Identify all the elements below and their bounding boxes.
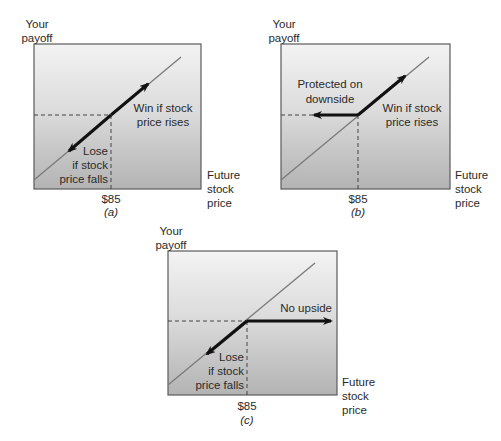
strike-label-a: $85 [91, 192, 131, 206]
annotation-line: Lose [186, 350, 244, 364]
x-axis-label-line: Future [207, 168, 240, 182]
annotation-line: price rises [125, 115, 201, 129]
annotation-line: price rises [374, 115, 450, 129]
annotation-lose-c: Lose if stock price falls [186, 350, 244, 392]
annotation-line: No upside [250, 301, 332, 315]
x-axis-label-line: price [207, 196, 240, 210]
annotation-line: Win if stock [125, 101, 201, 115]
x-axis-label-line: stock [342, 389, 375, 403]
annotation-line: Lose [50, 144, 108, 158]
annotation-protected-b: Protected on downside [290, 77, 370, 107]
strike-label-b: $85 [338, 192, 378, 206]
annotation-win-b: Win if stock price rises [374, 101, 450, 129]
x-axis-label-line: price [455, 196, 488, 210]
annotation-line: price falls [50, 172, 108, 186]
caption-a: (a) [91, 205, 131, 219]
caption-b: (b) [338, 205, 378, 219]
y-axis-label-b: Your payoff [261, 17, 307, 45]
x-axis-label-line: stock [455, 182, 488, 196]
caption-c: (c) [227, 413, 267, 427]
x-axis-label-line: Future [342, 375, 375, 389]
y-axis-label-line: Your [14, 17, 60, 31]
payoff-diagrams [0, 0, 501, 441]
y-axis-label-line: Your [148, 224, 194, 238]
x-axis-label-a: Future stock price [207, 168, 240, 210]
y-axis-label-a: Your payoff [14, 17, 60, 45]
y-axis-label-line: payoff [261, 31, 307, 45]
annotation-no-upside-c: No upside [250, 301, 332, 315]
x-axis-label-b: Future stock price [455, 168, 488, 210]
y-axis-label-line: Your [261, 17, 307, 31]
x-axis-label-line: Future [455, 168, 488, 182]
x-axis-label-line: stock [207, 182, 240, 196]
strike-label-c: $85 [227, 399, 267, 413]
annotation-win-a: Win if stock price rises [125, 101, 201, 129]
annotation-line: Win if stock [374, 101, 450, 115]
annotation-line: Protected on [290, 77, 370, 92]
y-axis-label-line: payoff [14, 31, 60, 45]
y-axis-label-line: payoff [148, 238, 194, 252]
annotation-lose-a: Lose if stock price falls [50, 144, 108, 186]
annotation-line: downside [290, 92, 370, 107]
annotation-line: price falls [186, 378, 244, 392]
annotation-line: if stock [50, 158, 108, 172]
x-axis-label-line: price [342, 403, 375, 417]
annotation-line: if stock [186, 364, 244, 378]
x-axis-label-c: Future stock price [342, 375, 375, 417]
y-axis-label-c: Your payoff [148, 224, 194, 252]
